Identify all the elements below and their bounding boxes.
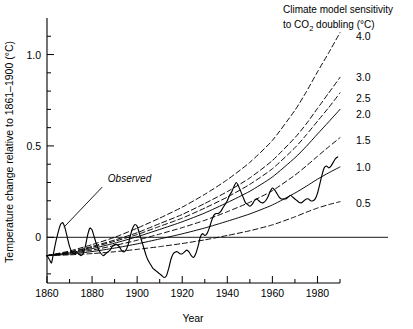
plot-frame: [47, 18, 340, 283]
climate-projection-figure: 1860188019001920194019601980 00.51.0 4.0…: [0, 0, 413, 329]
legend-title-co2-pre: to CO: [283, 19, 309, 30]
curve-label-3.0: 3.0: [356, 71, 371, 83]
legend-title-unit: °C): [360, 19, 375, 30]
chart-canvas: 1860188019001920194019601980 00.51.0 4.0…: [0, 0, 413, 329]
y-axis-tick-labels: 00.51.0: [26, 49, 41, 244]
x-axis-ticks: [47, 276, 340, 283]
legend-title-line1: Climate model sensitivity: [283, 4, 393, 15]
y-tick-label: 0: [35, 231, 41, 243]
observed-annotation-label: Observed: [108, 173, 152, 184]
y-tick-label: 0.5: [26, 140, 41, 152]
x-tick-label: 1920: [171, 287, 195, 299]
model-sensitivity-curves: [47, 33, 340, 256]
x-tick-label: 1860: [35, 287, 59, 299]
y-axis-ticks: [47, 36, 54, 274]
curve-label-1.5: 1.5: [356, 134, 371, 146]
x-tick-label: 1960: [261, 287, 285, 299]
model-curve-2.0: [47, 109, 340, 255]
model-curve-1.0: [47, 167, 340, 256]
x-axis-tick-labels: 1860188019001920194019601980: [35, 287, 329, 299]
curve-label-4.0: 4.0: [356, 30, 371, 42]
y-axis-title: Temperature change relative to 1861–1900…: [3, 41, 15, 263]
curve-label-2.5: 2.5: [356, 92, 371, 104]
x-axis-title: Year: [182, 312, 204, 324]
x-tick-label: 1980: [306, 287, 330, 299]
observed-annotation-leader: [64, 187, 102, 227]
x-tick-label: 1900: [125, 287, 149, 299]
y-tick-label: 1.0: [26, 49, 41, 61]
model-curve-4.0: [47, 33, 340, 256]
curve-label-2.0: 2.0: [356, 108, 371, 120]
chart-annotations: Observed: [64, 173, 152, 228]
curve-label-1.0: 1.0: [356, 161, 371, 173]
x-tick-label: 1880: [80, 287, 104, 299]
curve-value-labels: 4.03.02.52.01.51.00.5: [356, 30, 371, 209]
legend-title-doubling: doubling (: [313, 19, 360, 30]
model-curve-1.5: [47, 138, 340, 256]
x-tick-label: 1940: [216, 287, 240, 299]
curve-label-0.5: 0.5: [356, 197, 371, 209]
